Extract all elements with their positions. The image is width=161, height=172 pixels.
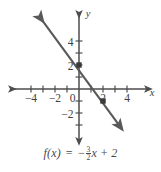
- equals-sign: =: [65, 146, 73, 160]
- line-segment-fx: [41, 18, 120, 126]
- x-tick-label-neg2: −2: [49, 92, 61, 104]
- y-axis: [76, 15, 83, 142]
- y-tick-label-4: 4: [68, 36, 74, 48]
- x-tick-label-4: 4: [124, 92, 130, 104]
- variable-x: x: [92, 146, 98, 160]
- point-y-intercept: [76, 62, 81, 67]
- function-argument: (x): [47, 146, 61, 160]
- x-tick-label-zero: 0: [70, 92, 76, 104]
- coordinate-plane: −4 −2 0 2 4 4 2 −2 x y: [0, 0, 161, 148]
- function-line: [41, 18, 120, 126]
- minus-sign: −: [77, 146, 85, 160]
- fraction-denominator: 2: [86, 154, 91, 162]
- y-tick-label-neg2: −2: [61, 108, 73, 120]
- x-tick-labels: −4 −2 0 2 4: [25, 92, 130, 104]
- equation-caption: f(x)=−32x+2: [0, 146, 161, 163]
- x-tick-label-neg4: −4: [25, 92, 37, 104]
- x-axis-label: x: [149, 87, 155, 98]
- y-tick-label-2: 2: [68, 60, 74, 72]
- y-axis-label: y: [85, 8, 91, 19]
- x-tick-label-2: 2: [100, 92, 106, 104]
- constant-term: 2: [111, 146, 117, 160]
- plus-sign: +: [100, 146, 108, 160]
- slope-fraction: 32: [86, 146, 91, 163]
- linear-function-figure: −4 −2 0 2 4 4 2 −2 x y f(x)=−32x+2: [0, 0, 161, 172]
